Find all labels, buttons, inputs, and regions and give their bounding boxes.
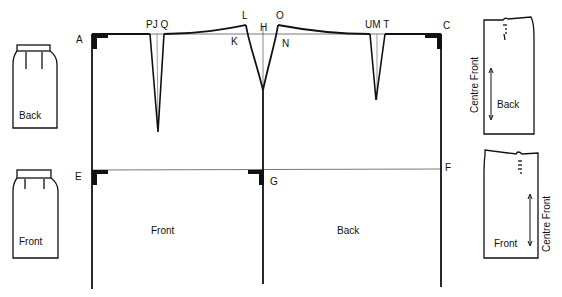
point-label-o: O — [276, 11, 284, 21]
pattern-front-centre-front-label: Centre Front — [541, 196, 552, 252]
pattern-back-label: Back — [497, 100, 519, 110]
point-label-pjq: PJ Q — [146, 20, 168, 30]
pattern-back-centre-front-label: Centre Front — [469, 57, 480, 113]
point-label-e: E — [75, 172, 82, 182]
thumbnail-front-label: Front — [19, 237, 42, 247]
front-side-curve — [246, 25, 263, 90]
front-waist-curve — [92, 25, 246, 34]
point-label-umt: UM T — [365, 20, 389, 30]
back-side-curve — [263, 25, 278, 90]
pattern-front-label: Front — [494, 239, 517, 249]
right-angle-markers — [92, 34, 442, 185]
main-draft — [92, 25, 442, 289]
panel-label-front: Front — [151, 226, 174, 236]
thumbnail-back-label: Back — [19, 111, 41, 121]
back-dart — [370, 34, 385, 100]
point-label-k: K — [231, 37, 238, 47]
pattern-piece-back — [484, 17, 534, 134]
hip-line — [92, 169, 441, 170]
point-label-f: F — [445, 163, 451, 173]
point-label-a: A — [76, 35, 83, 45]
point-label-h: H — [260, 23, 267, 33]
point-label-c: C — [443, 21, 450, 31]
point-label-g: G — [270, 177, 278, 187]
skirt-draft-canvas — [0, 0, 562, 297]
point-label-n: N — [282, 39, 289, 49]
back-waist-curve — [278, 25, 441, 34]
point-label-l: L — [242, 11, 248, 21]
panel-label-back: Back — [337, 226, 359, 236]
